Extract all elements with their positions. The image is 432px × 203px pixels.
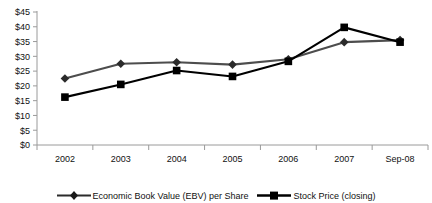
- x-tick-label: 2003: [111, 154, 131, 164]
- y-tick-label: $35: [15, 37, 30, 47]
- square-marker-icon: [257, 190, 291, 201]
- data-point-marker: [228, 60, 237, 69]
- data-point-marker: [173, 67, 181, 75]
- data-point-marker: [396, 38, 404, 46]
- y-tick-label: $20: [15, 81, 30, 91]
- data-point-marker: [117, 81, 125, 89]
- y-tick-label: $30: [15, 52, 30, 62]
- x-tick-label: 2004: [167, 154, 187, 164]
- x-tick-label: 2002: [55, 154, 75, 164]
- legend-label-ebv: Economic Book Value (EBV) per Share: [93, 191, 249, 201]
- y-tick-label: $40: [15, 22, 30, 32]
- data-point-marker: [61, 93, 69, 101]
- legend-label-stock: Stock Price (closing): [293, 191, 375, 201]
- y-tick-label: $10: [15, 111, 30, 121]
- y-tick-label: $15: [15, 96, 30, 106]
- diamond-marker-icon: [57, 190, 91, 201]
- y-tick-label: $5: [20, 126, 30, 136]
- data-point-marker: [116, 59, 125, 68]
- data-point-marker: [229, 73, 237, 81]
- chart-plot-area: $0$5$10$15$20$25$30$35$40$45200220032004…: [0, 0, 432, 203]
- x-tick-label: 2006: [278, 154, 298, 164]
- y-tick-label: $45: [15, 7, 30, 17]
- x-tick-label: 2007: [334, 154, 354, 164]
- line-chart: $0$5$10$15$20$25$30$35$40$45200220032004…: [0, 0, 432, 203]
- data-point-marker: [340, 24, 348, 32]
- legend-entry-ebv[interactable]: Economic Book Value (EBV) per Share: [57, 190, 249, 201]
- y-tick-label: $0: [20, 140, 30, 150]
- data-point-marker: [340, 38, 349, 47]
- x-tick-label: 2005: [222, 154, 242, 164]
- x-tick-label: Sep-08: [386, 154, 415, 164]
- chart-legend: Economic Book Value (EBV) per Share Stoc…: [0, 190, 432, 201]
- legend-entry-stock[interactable]: Stock Price (closing): [257, 190, 375, 201]
- data-point-marker: [61, 74, 70, 83]
- data-point-marker: [172, 58, 181, 67]
- data-point-marker: [285, 58, 293, 66]
- y-tick-label: $25: [15, 66, 30, 76]
